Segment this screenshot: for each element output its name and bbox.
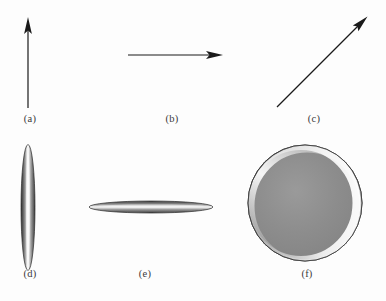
panel-label-f: (f) bbox=[295, 268, 319, 279]
sphere-glyph bbox=[0, 0, 386, 301]
figure-canvas: (a) (b) (c) bbox=[0, 0, 386, 301]
